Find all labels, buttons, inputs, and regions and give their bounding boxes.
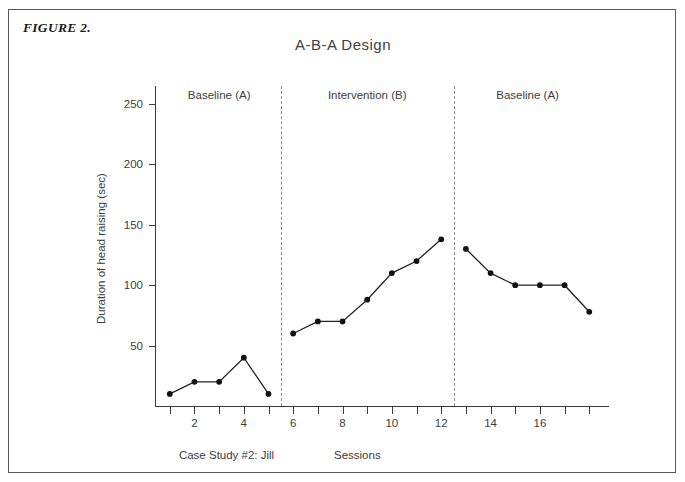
data-point-marker bbox=[290, 331, 296, 337]
x-axis-tick-label: 14 bbox=[484, 417, 497, 429]
x-axis-tick bbox=[343, 407, 344, 414]
x-axis-tick-label: 8 bbox=[339, 417, 345, 429]
y-axis-tick bbox=[149, 346, 155, 347]
x-axis-tick-label: 4 bbox=[241, 417, 247, 429]
x-axis-title: Sessions bbox=[334, 449, 381, 461]
x-axis-tick bbox=[589, 407, 590, 414]
phase-label: Baseline (A) bbox=[188, 89, 251, 101]
x-axis-tick bbox=[540, 407, 541, 414]
x-axis-tick bbox=[392, 407, 393, 414]
x-axis-tick-label: 10 bbox=[385, 417, 398, 429]
y-axis-tick-label: 150 bbox=[109, 219, 143, 231]
x-axis-tick bbox=[269, 407, 270, 414]
phase-label: Intervention (B) bbox=[328, 89, 407, 101]
x-axis-tick-label: 2 bbox=[191, 417, 197, 429]
data-point-marker bbox=[216, 379, 222, 385]
data-point-marker bbox=[167, 391, 173, 397]
x-axis-tick bbox=[515, 407, 516, 414]
case-study-caption: Case Study #2: Jill bbox=[179, 449, 274, 461]
y-axis-line bbox=[155, 86, 156, 407]
y-axis-tick bbox=[149, 225, 155, 226]
data-line-segment bbox=[293, 239, 441, 333]
x-axis-tick-label: 12 bbox=[435, 417, 448, 429]
data-point-marker bbox=[414, 258, 420, 264]
x-axis-tick bbox=[194, 407, 195, 414]
y-axis-tick bbox=[149, 285, 155, 286]
x-axis-tick bbox=[293, 407, 294, 414]
data-point-marker bbox=[364, 297, 370, 303]
data-point-marker bbox=[241, 355, 247, 361]
data-point-marker bbox=[537, 282, 543, 288]
figure-frame: FIGURE 2. A-B-A Design 50100150200250246… bbox=[8, 9, 676, 473]
data-point-marker bbox=[488, 270, 494, 276]
x-axis-tick-label: 16 bbox=[534, 417, 547, 429]
x-axis-tick bbox=[244, 407, 245, 414]
x-axis-tick bbox=[417, 407, 418, 414]
data-line-segment bbox=[466, 249, 589, 312]
data-point-marker bbox=[562, 282, 568, 288]
y-axis-tick bbox=[149, 104, 155, 105]
data-point-marker bbox=[512, 282, 518, 288]
x-axis-tick bbox=[466, 407, 467, 414]
plot-area: 50100150200250246810121416Duration of he… bbox=[9, 10, 677, 474]
x-axis-tick bbox=[219, 407, 220, 414]
x-axis-tick-label: 6 bbox=[290, 417, 296, 429]
y-axis-tick-label: 100 bbox=[109, 279, 143, 291]
data-line-segment bbox=[170, 358, 269, 394]
x-axis-tick bbox=[565, 407, 566, 414]
phase-label: Baseline (A) bbox=[496, 89, 559, 101]
series-line-chart bbox=[9, 10, 677, 474]
data-point-marker bbox=[463, 246, 469, 252]
data-point-marker bbox=[315, 319, 321, 325]
y-axis-tick bbox=[149, 164, 155, 165]
x-axis-tick bbox=[491, 407, 492, 414]
data-point-marker bbox=[192, 379, 198, 385]
data-point-marker bbox=[586, 309, 592, 315]
data-point-marker bbox=[438, 236, 444, 242]
y-axis-tick-label: 250 bbox=[109, 98, 143, 110]
x-axis-tick bbox=[318, 407, 319, 414]
x-axis-tick bbox=[170, 407, 171, 414]
data-point-marker bbox=[266, 391, 272, 397]
x-axis-tick bbox=[367, 407, 368, 414]
y-axis-title: Duration of head raising (sec) bbox=[95, 174, 107, 325]
phase-divider bbox=[454, 86, 455, 406]
phase-divider bbox=[281, 86, 282, 406]
x-axis-tick bbox=[441, 407, 442, 414]
data-point-marker bbox=[389, 270, 395, 276]
y-axis-tick-label: 50 bbox=[109, 340, 143, 352]
data-point-marker bbox=[340, 319, 346, 325]
y-axis-tick-label: 200 bbox=[109, 158, 143, 170]
